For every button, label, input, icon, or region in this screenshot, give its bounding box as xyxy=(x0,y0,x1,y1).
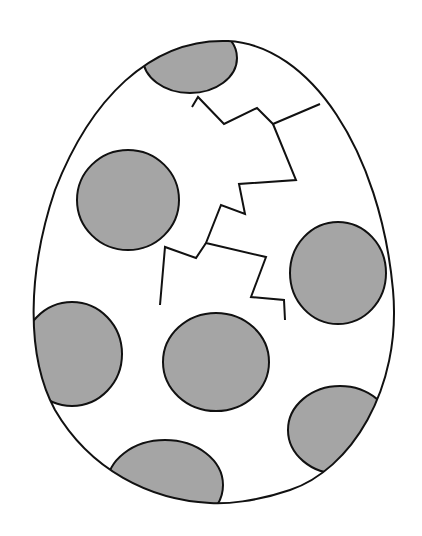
spot-upper-left xyxy=(77,150,179,250)
spot-center xyxy=(163,313,269,411)
egg-illustration: cracked spotted egg xyxy=(0,0,422,536)
spot-right xyxy=(290,222,386,324)
egg-drawing xyxy=(0,0,422,536)
spot-bottom xyxy=(107,440,223,530)
